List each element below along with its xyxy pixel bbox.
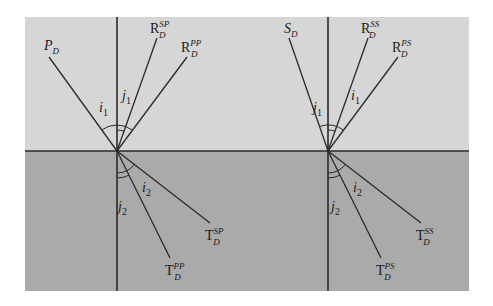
wave-conversion-diagram: PDRSPDRPPDTSPDTPPDi1j1i2j2 SDRSSDRPSDTSS… — [0, 0, 493, 306]
lower-medium — [25, 151, 469, 291]
